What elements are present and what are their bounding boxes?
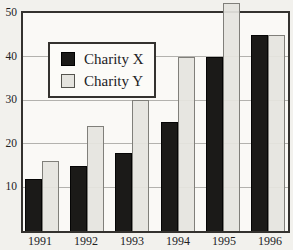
y-tick-label-10: 10 [0, 180, 17, 193]
y-tick-label-20: 20 [0, 137, 17, 150]
legend-swatch-charity-y [61, 74, 75, 88]
bar-group-1993 [115, 100, 149, 231]
x-tick-label-1995: 1995 [207, 235, 241, 248]
x-tick-label-1991: 1991 [23, 235, 57, 248]
bar-group-1992 [70, 126, 104, 231]
bar-charity-y-1996 [268, 35, 285, 231]
bar-charity-y-1995 [223, 3, 240, 231]
bar-charity-x-1993 [115, 153, 132, 231]
x-axis-labels: 199119921993199419951996 [21, 235, 290, 248]
chart-figure: Charity X Charity Y 19911992199319941995… [0, 0, 293, 250]
bar-charity-y-1991 [42, 161, 59, 231]
legend-label-charity-x: Charity X [84, 51, 144, 67]
bar-charity-x-1991 [25, 179, 42, 231]
bar-charity-y-1992 [87, 126, 104, 231]
legend: Charity X Charity Y [48, 42, 156, 98]
y-tick-label-40: 40 [0, 50, 17, 63]
x-tick-label-1992: 1992 [69, 235, 103, 248]
x-tick-label-1994: 1994 [161, 235, 195, 248]
bar-group-1996 [251, 35, 285, 231]
bar-charity-x-1994 [161, 122, 178, 231]
bar-group-1991 [25, 161, 59, 231]
bar-group-1994 [161, 57, 195, 231]
bar-charity-y-1994 [178, 57, 195, 231]
bar-charity-x-1995 [206, 57, 223, 231]
x-tick-label-1993: 1993 [115, 235, 149, 248]
legend-row-charity-x: Charity X [61, 51, 148, 67]
bar-charity-x-1996 [251, 35, 268, 231]
x-tick-label-1996: 1996 [253, 235, 287, 248]
legend-row-charity-y: Charity Y [61, 73, 148, 89]
bar-charity-x-1992 [70, 166, 87, 231]
bar-group-1995 [206, 3, 240, 231]
legend-label-charity-y: Charity Y [84, 73, 143, 89]
bar-charity-y-1993 [132, 100, 149, 231]
legend-swatch-charity-x [61, 52, 75, 66]
y-tick-label-30: 30 [0, 93, 17, 106]
y-tick-label-50: 50 [0, 6, 17, 19]
